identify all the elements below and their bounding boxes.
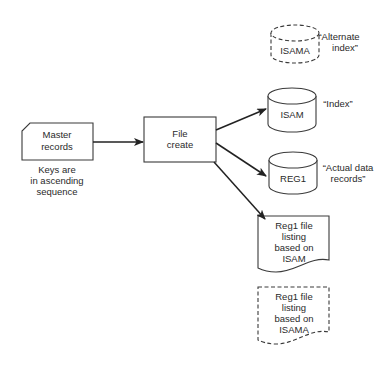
reg1-disk-node: REG1 “Actual data records” xyxy=(269,152,374,194)
master-records-node: Master records xyxy=(22,123,93,160)
listing-isam-document-node: Reg1 file listing based on ISAM xyxy=(258,216,329,272)
svg-text:ISAM: ISAM xyxy=(282,253,305,264)
svg-text:File: File xyxy=(172,128,187,139)
file-create-diagram: Master records Keys are in ascending seq… xyxy=(0,0,390,365)
svg-text:“Actual data: “Actual data xyxy=(323,162,374,173)
svg-text:REG1: REG1 xyxy=(280,173,306,184)
svg-text:Keys are: Keys are xyxy=(38,164,76,175)
master-records-note: Keys are in ascending sequence xyxy=(30,164,83,197)
svg-text:based on: based on xyxy=(274,313,313,324)
svg-text:index”: index” xyxy=(332,42,358,53)
master-records-label-2: records xyxy=(41,141,73,152)
isam-disk-node: ISAM “Index” xyxy=(268,88,353,132)
edge-file-create-to-isam xyxy=(216,109,266,130)
svg-text:“Alternate: “Alternate xyxy=(318,31,359,42)
svg-text:ISAM: ISAM xyxy=(280,109,303,120)
isama-disk-node: ISAMA “Alternate index” xyxy=(271,25,360,63)
svg-text:ISAMA: ISAMA xyxy=(279,324,309,335)
file-create-node: File create xyxy=(144,117,216,162)
listing-isama-document-node: Reg1 file listing based on ISAMA xyxy=(258,287,329,344)
svg-text:ISAMA: ISAMA xyxy=(280,45,310,56)
svg-text:listing: listing xyxy=(282,231,306,242)
edge-file-create-to-reg1 xyxy=(216,143,266,176)
svg-text:Reg1 file: Reg1 file xyxy=(275,291,313,302)
svg-text:listing: listing xyxy=(282,302,306,313)
svg-text:records”: records” xyxy=(331,173,366,184)
svg-text:based on: based on xyxy=(274,242,313,253)
svg-text:sequence: sequence xyxy=(36,186,77,197)
master-records-label-1: Master xyxy=(42,129,71,140)
svg-text:create: create xyxy=(167,139,193,150)
svg-text:“Index”: “Index” xyxy=(323,98,353,109)
svg-text:in ascending: in ascending xyxy=(30,175,83,186)
svg-text:Reg1 file: Reg1 file xyxy=(275,220,313,231)
